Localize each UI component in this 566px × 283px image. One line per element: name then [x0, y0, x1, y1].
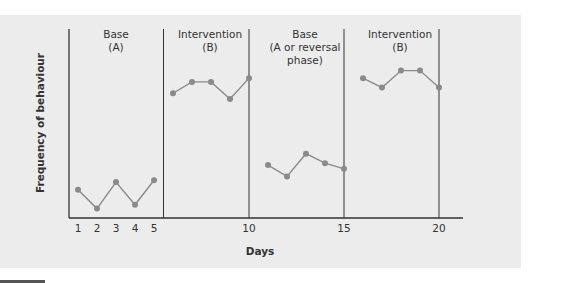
x-axis-title: Days	[240, 245, 280, 257]
data-point	[246, 75, 252, 81]
x-tick-label: 2	[87, 222, 107, 234]
x-tick-label: 20	[429, 222, 449, 234]
data-point	[284, 173, 290, 179]
data-point	[322, 160, 328, 166]
data-point	[265, 162, 271, 168]
data-point	[341, 166, 347, 172]
data-point	[113, 179, 119, 185]
data-point	[398, 68, 404, 74]
phase-label-intervention-b2: Intervention (B)	[353, 28, 447, 54]
data-point	[208, 79, 214, 85]
data-point	[189, 79, 195, 85]
x-tick-label: 1	[68, 222, 88, 234]
x-tick-label: 3	[106, 222, 126, 234]
data-point	[132, 202, 138, 208]
phase-label-intervention-b: Intervention (B)	[163, 28, 257, 54]
series-line	[268, 154, 344, 177]
x-tick-label: 10	[239, 222, 259, 234]
x-tick-label: 5	[144, 222, 164, 234]
phase-label-base-a: Base (A)	[69, 28, 163, 54]
x-tick-label: 15	[334, 222, 354, 234]
y-axis-title: Frequency of behaviour	[34, 43, 46, 203]
data-point	[303, 151, 309, 157]
data-point	[417, 68, 423, 74]
data-point	[170, 90, 176, 96]
data-point	[75, 187, 81, 193]
x-tick-label: 4	[125, 222, 145, 234]
data-point	[151, 177, 157, 183]
phase-label-reversal: Base (A or reversal phase)	[258, 28, 352, 67]
data-point	[94, 206, 100, 212]
data-point	[379, 85, 385, 91]
data-point	[227, 96, 233, 102]
data-point	[436, 85, 442, 91]
data-point	[360, 75, 366, 81]
